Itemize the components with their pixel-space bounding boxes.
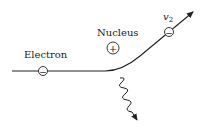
svg-text:−: − <box>39 67 47 77</box>
nucleus-label: Nucleus <box>97 27 138 38</box>
nucleus: + <box>107 42 119 54</box>
electron-label: Electron <box>24 49 68 60</box>
bremsstrahlung-diagram: − Electron + Nucleus − v2 <box>0 0 207 133</box>
outgoing-electron: − <box>165 28 174 38</box>
svg-text:+: + <box>109 43 117 54</box>
photon-wave <box>119 78 137 120</box>
svg-text:−: − <box>165 28 173 38</box>
incoming-electron: − <box>39 67 48 77</box>
v2-label: v2 <box>163 11 173 24</box>
